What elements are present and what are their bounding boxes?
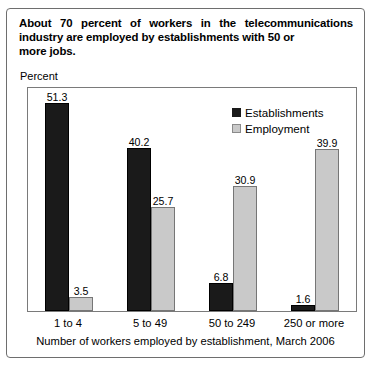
chart-title: About 70 percent of workers in the telec… bbox=[19, 16, 353, 59]
x-axis-title: Number of workers employed by establishm… bbox=[7, 334, 364, 348]
chart-title-line-1: About 70 percent of workers in the telec… bbox=[19, 17, 353, 29]
bar-group: 40.225.7 bbox=[127, 88, 175, 311]
chart-title-line-3: more jobs. bbox=[19, 44, 353, 58]
chart-figure: About 70 percent of workers in the telec… bbox=[6, 8, 365, 358]
bar-value-label: 6.8 bbox=[214, 271, 229, 283]
bar-value-label: 51.3 bbox=[47, 91, 68, 103]
bar-value-label: 3.5 bbox=[74, 285, 89, 297]
plot-frame: Establishments Employment 51.33.540.225.… bbox=[27, 87, 357, 312]
bar: 3.5 bbox=[69, 297, 93, 311]
bar-value-label: 1.6 bbox=[296, 293, 311, 305]
bar-group: 1.639.9 bbox=[291, 88, 339, 311]
bar: 39.9 bbox=[315, 149, 339, 311]
bar: 1.6 bbox=[291, 305, 315, 311]
bar: 40.2 bbox=[127, 148, 151, 311]
bar-value-label: 30.9 bbox=[235, 174, 256, 186]
bar-value-label: 39.9 bbox=[317, 137, 338, 149]
y-axis-label: Percent bbox=[20, 70, 58, 83]
bar: 51.3 bbox=[45, 103, 69, 311]
x-axis-tick-labels: 1 to 45 to 4950 to 249250 or more bbox=[27, 316, 357, 332]
plot-area: 51.33.540.225.76.830.91.639.9 bbox=[28, 88, 356, 311]
x-axis-tick-label: 250 or more bbox=[266, 316, 362, 330]
bar-group: 51.33.5 bbox=[45, 88, 93, 311]
bar: 6.8 bbox=[209, 283, 233, 311]
bar: 25.7 bbox=[151, 207, 175, 311]
chart-title-line-2: industry are employed by establishments … bbox=[19, 31, 294, 43]
bar-value-label: 40.2 bbox=[129, 136, 150, 148]
bar-value-label: 25.7 bbox=[153, 195, 174, 207]
bar-group: 6.830.9 bbox=[209, 88, 257, 311]
bar: 30.9 bbox=[233, 186, 257, 311]
